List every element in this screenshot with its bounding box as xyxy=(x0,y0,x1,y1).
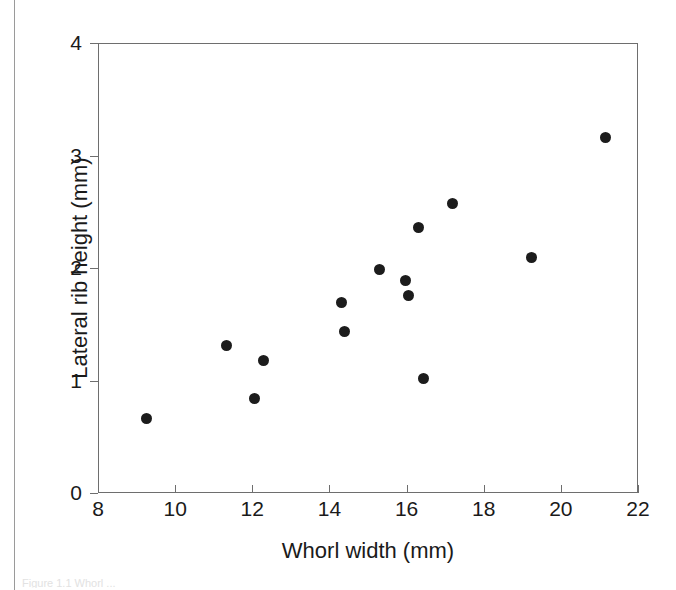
x-tick-label: 10 xyxy=(155,497,195,521)
x-tick-label: 22 xyxy=(618,497,658,521)
plot-frame xyxy=(98,43,638,493)
scatter-plot-figure: 810121416182022 01234 Whorl width (mm) L… xyxy=(0,0,676,590)
x-tick xyxy=(484,485,485,493)
x-tick xyxy=(638,485,639,493)
x-tick xyxy=(329,485,330,493)
page-edge-rule xyxy=(14,0,15,590)
data-point xyxy=(403,290,414,301)
data-point xyxy=(339,326,350,337)
data-point xyxy=(526,252,537,263)
caption-ghost: Figure 1.1 Whorl ... xyxy=(22,578,322,588)
data-point xyxy=(413,222,424,233)
x-tick xyxy=(252,485,253,493)
x-tick-label: 12 xyxy=(232,497,272,521)
x-tick-label: 16 xyxy=(387,497,427,521)
x-tick-label: 20 xyxy=(541,497,581,521)
x-tick-label: 18 xyxy=(464,497,504,521)
data-point xyxy=(600,132,611,143)
x-tick xyxy=(98,485,99,493)
data-point xyxy=(400,275,411,286)
x-tick xyxy=(561,485,562,493)
y-axis-title: Lateral rib height (mm) xyxy=(67,8,93,528)
x-tick xyxy=(175,485,176,493)
x-tick-label: 14 xyxy=(309,497,349,521)
data-point xyxy=(374,264,385,275)
x-axis-title: Whorl width (mm) xyxy=(98,538,638,564)
x-tick xyxy=(407,485,408,493)
data-point xyxy=(141,413,152,424)
